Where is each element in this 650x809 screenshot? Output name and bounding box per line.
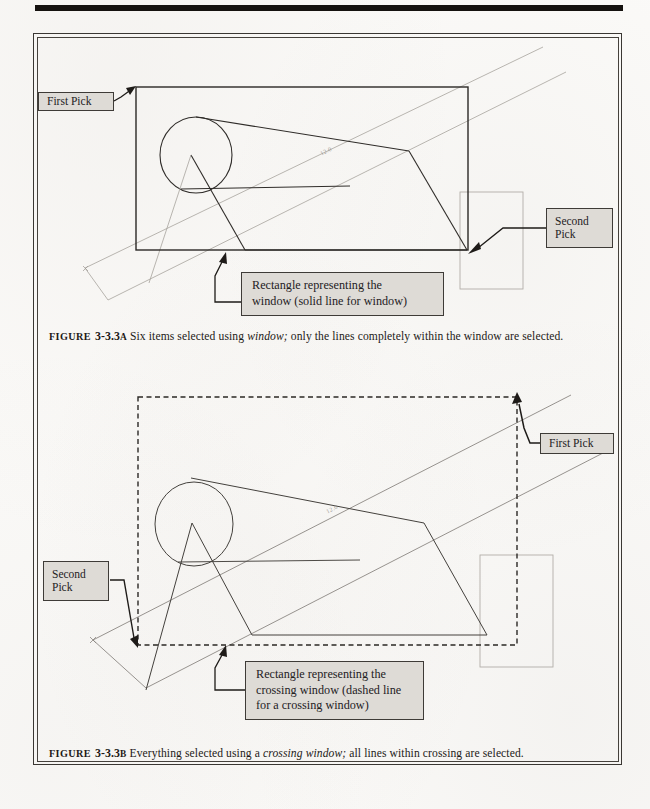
fig-a-caption-suffix: A [120, 332, 127, 342]
fig-a-caption-figure-word: FIGURE [49, 331, 91, 342]
fig-b-first-pick-label: First Pick [549, 437, 605, 451]
fig-b-window-desc-line2: crossing window (dashed line [256, 683, 413, 699]
fig-b-caption-figure-word: FIGURE [49, 748, 91, 759]
fig-a-caption-text-after: only the lines completely within the win… [288, 330, 564, 343]
scanned-book-page: First Pick Second Pick Rectangle represe… [0, 0, 650, 809]
fig-a-first-pick-arrowhead [126, 86, 136, 95]
fig-a-leader-line-upper [85, 47, 543, 268]
fig-b-window-desc-line1: Rectangle representing the [256, 667, 413, 683]
fig-b-first-pick-arrowhead [512, 392, 522, 404]
fig-a-leader-tick-left [85, 268, 108, 300]
fig-b-second-pick-label-line1: Second [52, 568, 100, 582]
fig-b-window-desc-arrowhead [219, 645, 227, 657]
fig-a-second-pick-callout[interactable]: Second Pick [546, 208, 613, 248]
fig-a-second-pick-leader [478, 228, 546, 248]
fig-b-caption-number: 3-3.3 [95, 746, 120, 760]
fig-b-cone-right-edge [146, 523, 192, 690]
fig-a-cone-left-edge [191, 155, 245, 250]
fig-a-mid-edge [181, 186, 350, 189]
fig-b-first-pick-callout[interactable]: First Pick [540, 433, 614, 454]
fig-a-selection-window [136, 87, 468, 250]
fig-b-window-desc-line3: for a crossing window) [256, 698, 413, 714]
fig-b-window-desc-leader [215, 655, 245, 690]
fig-a-caption-emphasis: window; [247, 330, 288, 343]
fig-a-caption-number: 3-3.3 [95, 329, 120, 343]
figure-b-drawing [90, 392, 603, 690]
fig-b-caption-text-before: Everything selected using a [126, 747, 263, 760]
fig-a-second-pick-arrowhead [468, 242, 481, 254]
fig-b-circle [155, 482, 233, 566]
fig-b-second-pick-callout[interactable]: Second Pick [43, 561, 109, 601]
fig-a-window-desc-leader [215, 262, 241, 302]
fig-a-window-desc-arrowhead [219, 252, 227, 264]
fig-b-right-edge [424, 523, 487, 635]
fig-b-mid-edge [178, 560, 360, 562]
fig-b-cone-left-edge [192, 523, 252, 635]
fig-a-first-pick-callout[interactable]: First Pick [38, 92, 114, 111]
fig-b-leader-tick-left [93, 640, 146, 688]
fig-b-window-description-callout[interactable]: Rectangle representing the crossing wind… [245, 661, 424, 720]
fig-b-caption-emphasis: crossing window; [263, 747, 346, 760]
fig-a-detail-rectangle [460, 192, 523, 289]
fig-b-selection-crossing-window [138, 397, 517, 645]
fig-a-second-pick-label-line1: Second [555, 215, 604, 229]
fig-a-right-edge [409, 151, 467, 250]
fig-a-top-edge [196, 117, 409, 151]
fig-a-circle [160, 117, 232, 193]
fig-b-second-pick-label-line2: Pick [52, 581, 100, 595]
fig-a-window-desc-line1: Rectangle representing the [252, 278, 433, 294]
fig-a-cone-right-edge [149, 155, 191, 283]
fig-a-window-desc-line2: window (solid line for window) [252, 294, 433, 310]
figure-a-drawing [83, 47, 566, 302]
fig-b-leader-line-upper [93, 395, 571, 640]
figure-a-caption: FIGURE3-3.3A Six items selected using wi… [49, 329, 563, 344]
fig-b-caption-text-after: all lines within crossing are selected. [346, 747, 524, 760]
fig-b-first-pick-leader [519, 404, 540, 443]
fig-a-window-description-callout[interactable]: Rectangle representing the window (solid… [241, 272, 444, 316]
fig-a-first-pick-label: First Pick [47, 95, 105, 109]
fig-a-second-pick-label-line2: Pick [555, 228, 604, 242]
fig-a-caption-text-before: Six items selected using [127, 330, 247, 343]
figure-b-caption: FIGURE3-3.3B Everything selected using a… [49, 746, 524, 761]
